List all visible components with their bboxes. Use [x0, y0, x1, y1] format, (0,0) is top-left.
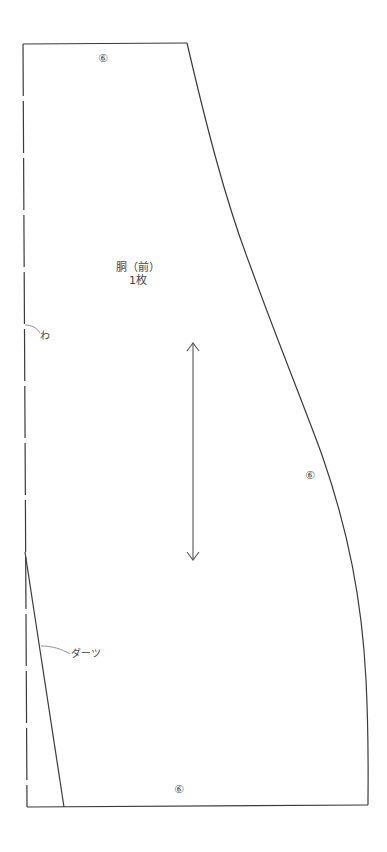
dart-line	[25, 552, 64, 807]
grainline-arrow-icon	[187, 343, 199, 560]
fold-label: わ	[40, 331, 50, 341]
top-edge	[23, 43, 187, 44]
dart-leader-line	[41, 646, 70, 654]
seam-allowance-bottom: ⑥	[174, 784, 184, 795]
piece-name: 胴（前）	[98, 261, 178, 274]
pattern-canvas	[0, 0, 387, 852]
fold-line	[23, 44, 27, 807]
seam-allowance-top: ⑥	[98, 53, 108, 64]
piece-count: 1枚	[98, 274, 178, 287]
bottom-edge	[27, 805, 368, 807]
seam-allowance-side: ⑥	[305, 470, 315, 481]
dart-label: ダーツ	[71, 649, 101, 659]
side-curve	[187, 43, 368, 805]
fold-leader-line	[25, 325, 40, 333]
